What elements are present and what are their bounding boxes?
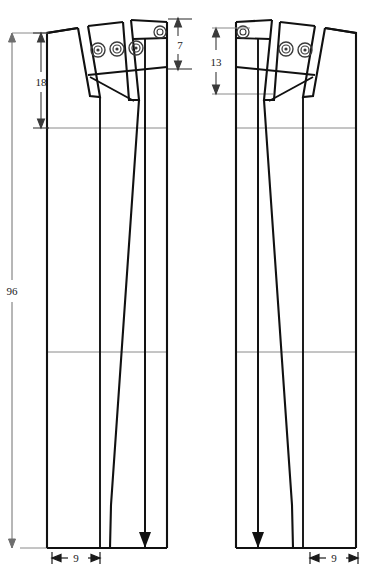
dimension-label-9-left: 9: [73, 552, 79, 564]
pattern-svg: 96 18 7 13 9: [0, 0, 376, 578]
pattern-drawing-canvas: 96 18 7 13 9: [0, 0, 376, 578]
dimension-label-7: 7: [177, 39, 183, 51]
dimension-label-9-right: 9: [331, 552, 337, 564]
dimension-label-13: 13: [211, 56, 223, 68]
drawing-background: [0, 0, 376, 578]
dimension-label-96: 96: [7, 285, 19, 297]
dimension-label-18: 18: [36, 76, 48, 88]
